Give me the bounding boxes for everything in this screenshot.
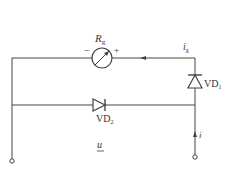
meter-minus: − bbox=[84, 45, 90, 56]
diode-vd1-icon bbox=[188, 75, 202, 88]
meter-plus: + bbox=[114, 45, 119, 55]
diode-vd2-icon bbox=[93, 99, 105, 111]
current-arrow-icon bbox=[140, 56, 146, 60]
diode-vd2-label: VD2 bbox=[96, 113, 113, 125]
current-i-arrow-icon bbox=[193, 131, 197, 137]
meter-label: Rg bbox=[94, 32, 106, 46]
meter-icon bbox=[92, 48, 112, 68]
current-i-label: i bbox=[199, 130, 202, 140]
current-g-label: ig bbox=[183, 41, 189, 53]
terminal-right bbox=[193, 155, 197, 159]
diode-vd1-label: VD1 bbox=[204, 78, 221, 90]
circuit-diagram: Rg − + ig VD1 VD2 i u bbox=[0, 0, 229, 171]
terminal-left bbox=[10, 159, 14, 163]
voltage-label: u bbox=[97, 139, 102, 150]
